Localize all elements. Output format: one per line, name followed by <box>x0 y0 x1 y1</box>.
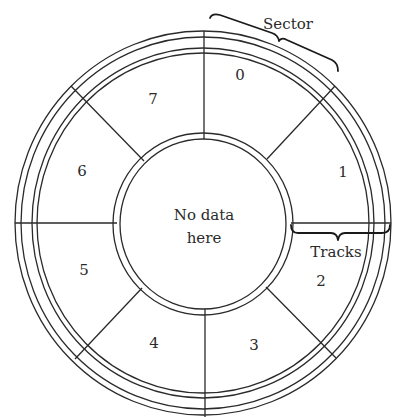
sector-label-3: 3 <box>249 336 259 354</box>
sector-label-6: 6 <box>77 162 87 180</box>
sector-annotation: Sector <box>263 15 314 33</box>
hub-label-line1: No data <box>174 206 234 224</box>
sector-label-2: 2 <box>316 272 326 290</box>
divider-45deg <box>267 86 335 159</box>
sector-label-7: 7 <box>148 90 158 108</box>
divider-225deg <box>75 288 142 359</box>
hub-ring-inner <box>120 139 286 309</box>
hub-label-line2: here <box>187 229 222 247</box>
sector-label-5: 5 <box>79 261 89 279</box>
sector-label-1: 1 <box>338 163 348 181</box>
sector-label-4: 4 <box>149 334 159 352</box>
disk-diagram: 0 1 2 3 4 5 6 7 No data here Sector Trac… <box>0 0 403 417</box>
tracks-annotation: Tracks <box>310 243 361 261</box>
divider-315deg <box>71 86 144 161</box>
tracks-brace-icon <box>291 225 390 240</box>
divider-135deg <box>266 287 336 358</box>
sector-dividers <box>15 31 391 417</box>
sector-label-0: 0 <box>235 66 245 84</box>
